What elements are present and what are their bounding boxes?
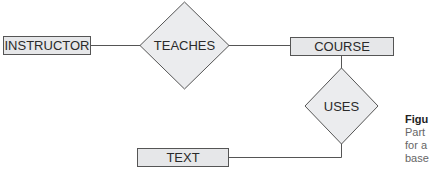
- entity-text[interactable]: TEXT: [138, 149, 229, 167]
- figure-caption-title: Figu: [405, 113, 429, 126]
- entity-course-label: COURSE: [314, 39, 370, 54]
- relationship-uses[interactable]: USES: [305, 68, 378, 144]
- entity-instructor[interactable]: INSTRUCTOR: [4, 37, 91, 55]
- relationship-teaches-label: TEACHES: [154, 38, 216, 53]
- figure-caption: Figu Part for a base: [405, 113, 429, 165]
- relationship-teaches[interactable]: TEACHES: [140, 2, 229, 89]
- entity-text-label: TEXT: [166, 150, 199, 165]
- figure-caption-line: base: [405, 152, 429, 165]
- figure-caption-line: Part: [405, 126, 429, 139]
- entity-course[interactable]: COURSE: [291, 38, 394, 56]
- entity-instructor-label: INSTRUCTOR: [5, 38, 90, 53]
- relationship-uses-label: USES: [324, 99, 360, 114]
- figure-caption-line: for a: [405, 139, 429, 152]
- connector-uses-text: [229, 144, 342, 158]
- er-diagram: INSTRUCTOR TEACHES COURSE USES TEXT: [0, 0, 440, 172]
